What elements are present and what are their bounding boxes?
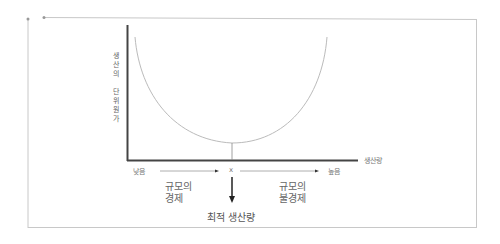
x-low-label: 낮음 [133, 166, 145, 176]
y-label-char: 가 [111, 115, 121, 124]
diseconomies-line1: 규모의 [279, 181, 306, 193]
average-cost-curve [135, 37, 327, 143]
y-axis-label: 생 산 의 단 위 원 가 [111, 52, 121, 124]
x-marker-label: x [229, 166, 233, 174]
frame-top-line [44, 18, 477, 20]
frame-left-dot [27, 18, 30, 21]
diseconomies-line2: 불경제 [279, 193, 306, 205]
x-high-label: 높음 [328, 166, 340, 176]
y-label-char: 위 [111, 97, 121, 106]
y-label-char: 생 [111, 52, 121, 61]
economies-line2: 경제 [165, 193, 192, 205]
optimal-output-label: 최적 생산량 [207, 209, 255, 224]
y-label-char: 산 [111, 61, 121, 70]
right-arrowhead-icon [315, 170, 319, 173]
y-label-char: 단 [111, 88, 121, 97]
y-label-char: 원 [111, 106, 121, 115]
y-label-gap [111, 79, 121, 88]
economies-of-scale-label: 규모의 경제 [165, 181, 192, 205]
frame-top-dot [43, 16, 46, 19]
y-label-char: 의 [111, 70, 121, 79]
left-arrowhead-icon [215, 170, 219, 173]
x-axis-label: 생산량 [364, 155, 382, 165]
economies-line1: 규모의 [165, 181, 192, 193]
down-arrow-icon [229, 196, 235, 203]
diseconomies-of-scale-label: 규모의 불경제 [279, 181, 306, 205]
diagram-canvas [0, 0, 500, 244]
